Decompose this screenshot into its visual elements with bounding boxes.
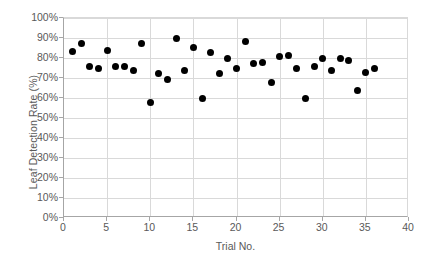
data-point: [112, 63, 119, 70]
gridline-horizontal: [64, 38, 407, 39]
gridline-horizontal: [64, 198, 407, 199]
gridline-horizontal: [64, 18, 407, 19]
data-point: [328, 67, 335, 74]
y-tick-label: 70%: [18, 72, 58, 83]
x-tick-mark: [236, 217, 237, 221]
y-tick-label: 80%: [18, 52, 58, 63]
data-point: [121, 63, 128, 70]
x-tick-mark: [63, 217, 64, 221]
data-point: [216, 70, 223, 77]
data-point: [242, 38, 249, 45]
data-point: [173, 35, 180, 42]
data-point: [130, 67, 137, 74]
x-tick-label: 40: [393, 222, 423, 233]
data-point: [371, 65, 378, 72]
gridline-horizontal: [64, 118, 407, 119]
data-point: [69, 48, 76, 55]
y-tick-label: 60%: [18, 92, 58, 103]
y-tick-label: 40%: [18, 132, 58, 143]
plot-area: [63, 17, 408, 217]
data-point: [95, 65, 102, 72]
gridline-vertical: [280, 18, 281, 216]
data-point: [199, 95, 206, 102]
data-point: [233, 65, 240, 72]
gridline-horizontal: [64, 98, 407, 99]
gridline-horizontal: [64, 78, 407, 79]
data-point: [319, 55, 326, 62]
data-point: [104, 47, 111, 54]
data-point: [138, 40, 145, 47]
x-tick-label: 30: [307, 222, 337, 233]
data-point: [268, 79, 275, 86]
x-tick-label: 25: [264, 222, 294, 233]
scatter-chart: Leaf Detection Rate (%) 0%10%20%30%40%50…: [0, 0, 430, 264]
gridline-vertical: [150, 18, 151, 216]
data-point: [86, 63, 93, 70]
y-tick-label: 90%: [18, 32, 58, 43]
gridline-horizontal: [64, 138, 407, 139]
data-point: [276, 53, 283, 60]
x-tick-label: 35: [350, 222, 380, 233]
y-tick-label: 0%: [18, 212, 58, 223]
data-point: [207, 49, 214, 56]
x-tick-mark: [279, 217, 280, 221]
data-point: [362, 69, 369, 76]
x-tick-mark: [408, 217, 409, 221]
data-point: [354, 87, 361, 94]
x-tick-label: 20: [221, 222, 251, 233]
y-tick-label: 10%: [18, 192, 58, 203]
data-point: [164, 76, 171, 83]
x-axis-title: Trial No.: [63, 240, 408, 252]
x-tick-mark: [322, 217, 323, 221]
data-point: [302, 95, 309, 102]
data-point: [147, 99, 154, 106]
data-point: [259, 59, 266, 66]
y-tick-label: 30%: [18, 152, 58, 163]
data-point: [181, 67, 188, 74]
gridline-horizontal: [64, 58, 407, 59]
y-tick-label: 100%: [18, 12, 58, 23]
data-point: [293, 65, 300, 72]
x-tick-mark: [365, 217, 366, 221]
x-tick-mark: [192, 217, 193, 221]
x-tick-label: 5: [91, 222, 121, 233]
x-tick-mark: [106, 217, 107, 221]
x-tick-label: 15: [177, 222, 207, 233]
x-tick-label: 0: [48, 222, 78, 233]
data-point: [155, 70, 162, 77]
data-point: [345, 57, 352, 64]
gridline-horizontal: [64, 158, 407, 159]
gridline-horizontal: [64, 178, 407, 179]
y-tick-label: 20%: [18, 172, 58, 183]
data-point: [337, 55, 344, 62]
data-point: [311, 63, 318, 70]
data-point: [285, 52, 292, 59]
data-point: [190, 44, 197, 51]
y-tick-label: 50%: [18, 112, 58, 123]
gridline-vertical: [323, 18, 324, 216]
data-point: [250, 60, 257, 67]
data-point: [78, 40, 85, 47]
gridline-vertical: [237, 18, 238, 216]
x-tick-label: 10: [134, 222, 164, 233]
gridline-vertical: [366, 18, 367, 216]
data-point: [224, 55, 231, 62]
x-tick-mark: [149, 217, 150, 221]
